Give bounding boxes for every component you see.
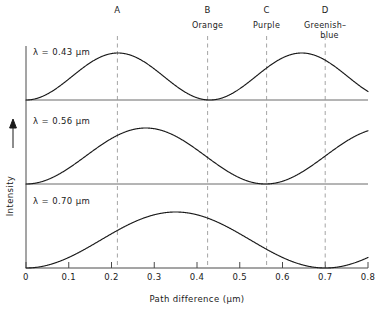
chart-curves-overlay bbox=[0, 0, 382, 311]
interference-intensity-chart: 0 0.1 0.2 0.3 0.4 0.5 0.6 0.7 0.8 Path d… bbox=[0, 0, 382, 311]
